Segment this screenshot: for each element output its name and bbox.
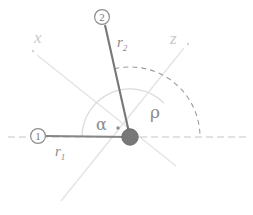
axis-x-endpoint-dot xyxy=(32,50,34,52)
joint-1-label: 1 xyxy=(30,129,46,145)
axis-x-label: x xyxy=(34,29,42,46)
link-2-label: r2 xyxy=(117,35,127,53)
axis-z-label: z xyxy=(170,30,177,47)
diagram-canvas: 1 2 x z r1 r2 α ρ xyxy=(0,0,253,215)
link-2-label-subscript: 2 xyxy=(123,43,128,53)
joint-2-label: 2 xyxy=(94,10,110,26)
angle-rho-label: ρ xyxy=(150,104,160,121)
hub-joint xyxy=(122,129,138,145)
axis-z-endpoint-dot xyxy=(187,43,189,45)
axis-z-line xyxy=(61,48,184,201)
angle-alpha-label: α xyxy=(96,117,107,133)
pivot-reference-dot xyxy=(116,126,119,129)
link-1-segment xyxy=(46,136,130,137)
link-1-label: r1 xyxy=(55,144,65,162)
link-1-label-subscript: 1 xyxy=(61,152,66,162)
